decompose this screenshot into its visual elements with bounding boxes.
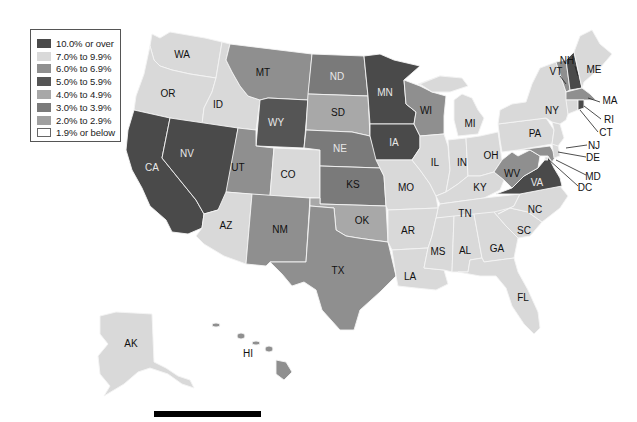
label-in: IN: [457, 157, 467, 168]
state-me: [574, 30, 612, 88]
label-mn: MN: [377, 87, 393, 98]
legend-swatch: [37, 128, 51, 137]
legend-label: 7.0% to 9.9%: [56, 51, 111, 62]
label-ne: NE: [333, 143, 347, 154]
label-nc: NC: [528, 204, 542, 215]
legend-label: 1.9% or below: [56, 127, 115, 138]
label-fl: FL: [517, 292, 529, 303]
label-al: AL: [459, 245, 472, 256]
legend-item: 5.0% to 5.9%: [37, 75, 120, 88]
label-md: MD: [585, 171, 601, 182]
legend-swatch: [37, 64, 51, 73]
legend-label: 3.0% to 3.9%: [56, 102, 111, 113]
state-ak: [98, 312, 194, 396]
label-oh: OH: [484, 150, 499, 161]
label-nm: NM: [272, 224, 288, 235]
state-nj: [552, 122, 564, 146]
state-ri: [578, 100, 584, 110]
legend-swatch: [37, 39, 51, 48]
label-mi: MI: [464, 118, 475, 129]
state-dc: [545, 157, 548, 160]
label-nv: NV: [180, 148, 194, 159]
label-wy: WY: [268, 117, 284, 128]
label-hi: HI: [243, 348, 253, 359]
legend-swatch: [37, 103, 51, 112]
label-pa: PA: [529, 128, 542, 139]
legend-label: 10.0% or over: [56, 38, 114, 49]
label-ct: CT: [599, 127, 612, 138]
label-nj: NJ: [588, 140, 600, 151]
label-nd: ND: [330, 71, 344, 82]
label-wv: WV: [504, 168, 520, 179]
label-mt: MT: [256, 67, 270, 78]
label-ga: GA: [490, 243, 505, 254]
label-id: ID: [213, 99, 223, 110]
label-ks: KS: [346, 179, 360, 190]
label-vt: VT: [550, 66, 563, 77]
label-co: CO: [281, 169, 296, 180]
label-ny: NY: [545, 105, 559, 116]
state-ct: [566, 100, 578, 114]
label-az: AZ: [220, 220, 233, 231]
label-ms: MS: [431, 246, 446, 257]
label-de: DE: [586, 152, 600, 163]
legend-label: 2.0% to 2.9%: [56, 115, 111, 126]
scale-bar: [154, 411, 261, 417]
label-wa: WA: [174, 49, 190, 60]
legend-item: 10.0% or over: [37, 37, 120, 50]
state-mi-lp: [454, 94, 484, 136]
label-il: IL: [431, 157, 440, 168]
label-va: VA: [531, 177, 544, 188]
label-or: OR: [161, 88, 176, 99]
label-ky: KY: [473, 182, 487, 193]
legend-item: 3.0% to 3.9%: [37, 101, 120, 114]
legend-item: 7.0% to 9.9%: [37, 50, 120, 63]
label-ca: CA: [145, 162, 159, 173]
label-mo: MO: [398, 182, 414, 193]
legend-swatch: [37, 90, 51, 99]
legend-swatch: [37, 77, 51, 86]
label-dc: DC: [578, 182, 592, 193]
label-wi: WI: [420, 105, 432, 116]
label-tn: TN: [458, 208, 471, 219]
legend-label: 5.0% to 5.9%: [56, 76, 111, 87]
map-legend: 10.0% or over 7.0% to 9.9% 6.0% to 6.9% …: [30, 29, 121, 142]
legend-item: 4.0% to 4.9%: [37, 88, 120, 101]
label-la: LA: [404, 271, 417, 282]
label-sc: SC: [517, 225, 531, 236]
label-ak: AK: [124, 338, 138, 349]
label-ma: MA: [603, 95, 618, 106]
label-ok: OK: [355, 215, 370, 226]
legend-item: 1.9% or below: [37, 127, 120, 140]
legend-swatch: [37, 116, 51, 125]
label-tx: TX: [332, 265, 345, 276]
label-nh: NH: [560, 55, 574, 66]
label-sd: SD: [331, 107, 345, 118]
label-ut: UT: [231, 162, 244, 173]
legend-swatch: [37, 52, 51, 61]
legend-item: 2.0% to 2.9%: [37, 114, 120, 127]
legend-item: 6.0% to 6.9%: [37, 63, 120, 76]
label-ia: IA: [389, 137, 399, 148]
label-ri: RI: [604, 114, 614, 125]
label-ar: AR: [401, 225, 415, 236]
legend-label: 6.0% to 6.9%: [56, 63, 111, 74]
legend-label: 4.0% to 4.9%: [56, 89, 111, 100]
label-me: ME: [587, 64, 602, 75]
